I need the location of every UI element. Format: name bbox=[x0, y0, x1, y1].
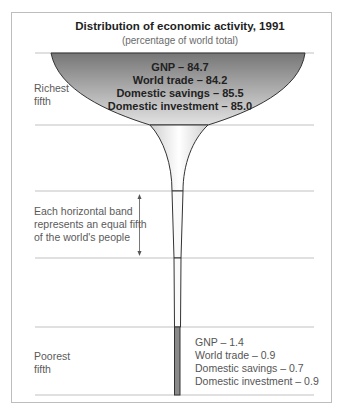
funnel-band-poorest bbox=[175, 327, 181, 395]
poorest-label-line2: fifth bbox=[34, 363, 51, 375]
poorest-value-world-trade: World trade – 0.9 bbox=[195, 349, 276, 361]
poorest-label-line1: Poorest bbox=[34, 350, 70, 362]
chart-subtitle: (percentage of world total) bbox=[122, 35, 238, 46]
richest-value-gnp: GNP – 84.7 bbox=[151, 61, 208, 73]
chart-title: Distribution of economic activity, 1991 bbox=[75, 20, 285, 32]
richest-label-line2: fifth bbox=[34, 95, 51, 107]
funnel-band-fourth bbox=[174, 258, 181, 327]
poorest-value-gnp: GNP – 1.4 bbox=[195, 336, 244, 348]
funnel-band-third bbox=[172, 191, 183, 258]
poorest-value-domestic-investment: Domestic investment – 0.9 bbox=[195, 375, 319, 387]
poorest-value-domestic-savings: Domestic savings – 0.7 bbox=[195, 362, 304, 374]
annotation-line2: represents an equal fifth bbox=[34, 218, 147, 230]
richest-value-domestic-savings: Domestic savings – 85.5 bbox=[116, 87, 243, 99]
richest-label-line1: Richest bbox=[34, 82, 69, 94]
funnel-chart: Distribution of economic activity, 1991 … bbox=[0, 0, 346, 418]
funnel-band-second bbox=[150, 125, 208, 191]
annotation-line1: Each horizontal band bbox=[34, 205, 133, 217]
richest-value-domestic-investment: Domestic investment – 85.0 bbox=[108, 100, 252, 112]
richest-value-world-trade: World trade – 84.2 bbox=[133, 74, 228, 86]
annotation-line3: of the world's people bbox=[34, 231, 130, 243]
